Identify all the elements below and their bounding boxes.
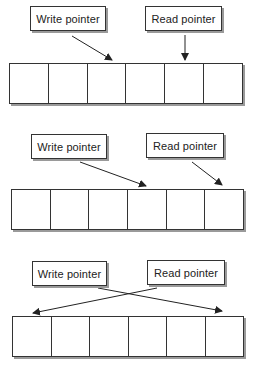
buffer-cell bbox=[13, 317, 52, 356]
read-pointer-arrow-3 bbox=[33, 288, 157, 313]
buffer-cell bbox=[128, 190, 167, 229]
buffer-cell bbox=[52, 317, 91, 356]
pointer-arrows bbox=[0, 0, 255, 366]
buffer-cell bbox=[12, 190, 51, 229]
buffer-1 bbox=[9, 63, 243, 104]
write-pointer-label: Write pointer bbox=[30, 6, 106, 31]
buffer-cell bbox=[51, 190, 90, 229]
buffer-cell bbox=[88, 64, 127, 103]
buffer-cell bbox=[129, 317, 168, 356]
write-pointer-arrow-2 bbox=[80, 162, 146, 186]
buffer-cell bbox=[165, 64, 204, 103]
read-pointer-label: Read pointer bbox=[147, 260, 225, 285]
read-pointer-label: Read pointer bbox=[146, 133, 224, 158]
buffer-cell bbox=[126, 64, 165, 103]
buffer-cell bbox=[206, 317, 244, 356]
buffer-cell bbox=[49, 64, 88, 103]
read-pointer-label: Read pointer bbox=[145, 6, 222, 31]
buffer-cell bbox=[10, 64, 49, 103]
buffer-3 bbox=[12, 316, 244, 357]
buffer-cell bbox=[205, 190, 243, 229]
buffer-cell bbox=[90, 317, 129, 356]
buffer-cell bbox=[89, 190, 128, 229]
buffer-2 bbox=[11, 189, 244, 230]
write-pointer-arrow-1 bbox=[72, 36, 112, 60]
buffer-cell bbox=[167, 190, 206, 229]
buffer-cell bbox=[204, 64, 242, 103]
write-pointer-label: Write pointer bbox=[32, 261, 107, 286]
read-pointer-arrow-2 bbox=[192, 162, 222, 185]
write-pointer-label: Write pointer bbox=[31, 134, 107, 159]
write-pointer-arrow-3 bbox=[98, 288, 222, 311]
buffer-cell bbox=[167, 317, 206, 356]
